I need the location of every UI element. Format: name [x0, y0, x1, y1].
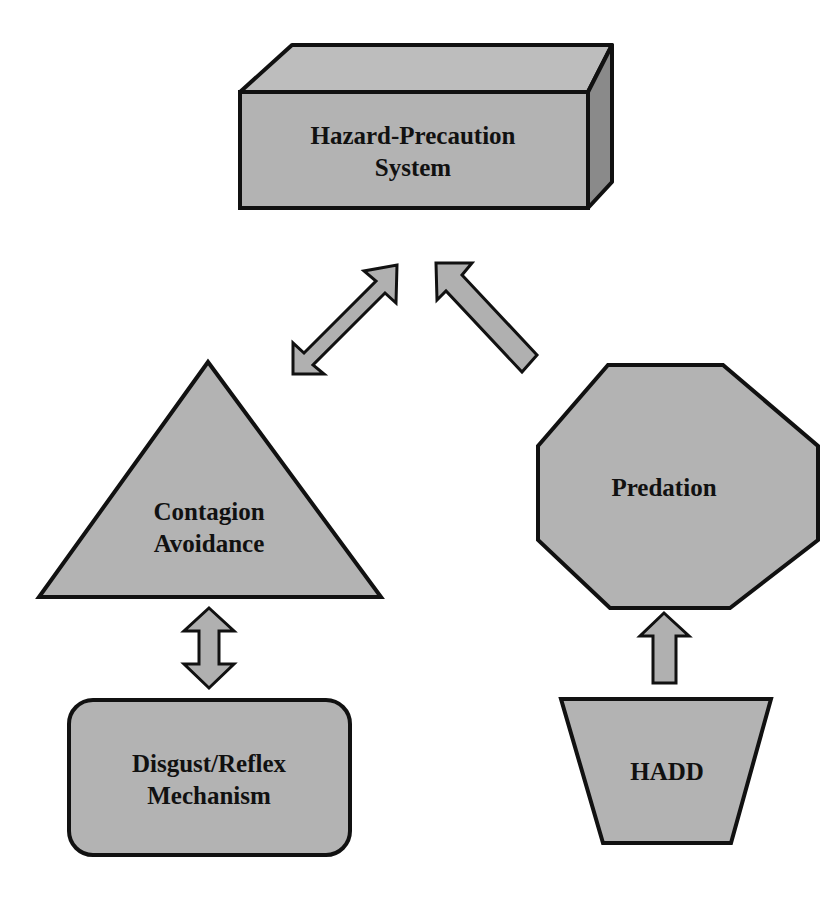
- hadd-label: HADD: [630, 756, 704, 788]
- box-top-face: [240, 45, 612, 92]
- contagion-avoidance-line2: Avoidance: [153, 528, 264, 560]
- hazard-precaution-label: Hazard-Precaution System: [310, 120, 515, 184]
- contagion-avoidance-triangle: [39, 362, 381, 597]
- contagion-avoidance-label: Contagion Avoidance: [153, 496, 264, 560]
- hazard-precaution-line1: Hazard-Precaution: [310, 120, 515, 152]
- predation-line1: Predation: [611, 472, 716, 504]
- predation-label: Predation: [611, 472, 716, 504]
- double-arrow-contagion-hazard: [293, 265, 397, 374]
- disgust-reflex-line2: Mechanism: [132, 780, 286, 812]
- arrow-hadd-predation: [640, 613, 689, 683]
- double-arrow-contagion-disgust: [184, 608, 234, 688]
- arrow-predation-hazard: [436, 263, 537, 372]
- hadd-line1: HADD: [630, 756, 704, 788]
- disgust-reflex-line1: Disgust/Reflex: [132, 748, 286, 780]
- hazard-precaution-line2: System: [310, 152, 515, 184]
- disgust-reflex-label: Disgust/Reflex Mechanism: [132, 748, 286, 812]
- contagion-avoidance-line1: Contagion: [153, 496, 264, 528]
